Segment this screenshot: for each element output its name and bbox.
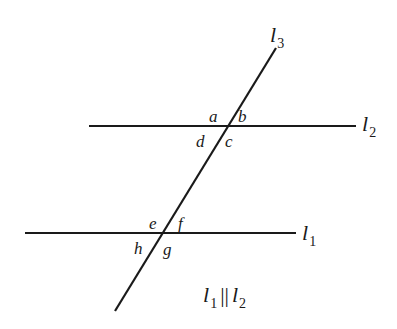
angle-g: g: [163, 240, 172, 259]
diagram-canvas: l3 l2 l1 a b d c e f h g l1||l2: [0, 0, 397, 329]
angle-e: e: [149, 214, 157, 233]
parallel-relation: l1||l2: [203, 282, 246, 311]
label-l3: l3: [270, 22, 284, 51]
label-l1-subscript: 1: [309, 234, 316, 249]
angle-a: a: [209, 107, 218, 126]
label-l2: l2: [362, 111, 376, 140]
angle-b: b: [238, 107, 247, 126]
label-l3-subscript: 3: [277, 36, 284, 51]
angle-h: h: [134, 239, 143, 258]
parallel-symbol: ||: [220, 282, 229, 307]
angle-f: f: [178, 214, 185, 233]
line-l3: [115, 48, 276, 311]
label-l1: l1: [302, 220, 316, 249]
angle-d: d: [196, 132, 205, 151]
label-l2-subscript: 2: [369, 125, 376, 140]
angle-c: c: [225, 132, 233, 151]
